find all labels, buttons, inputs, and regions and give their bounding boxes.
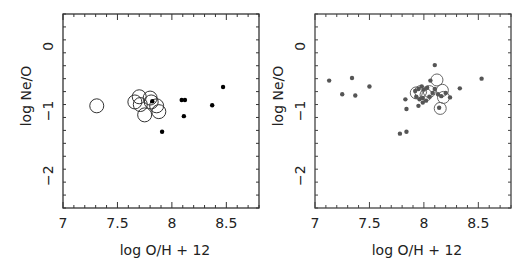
x-tick-label: 7 <box>311 215 320 231</box>
x-tick-label: 8.5 <box>215 215 237 231</box>
filled-dot-marker <box>210 103 214 107</box>
filled-dot-marker <box>430 91 434 95</box>
filled-dot-marker <box>458 86 462 90</box>
left-scatter-panel: 77.588.50−1−2 <box>40 14 259 231</box>
filled-dot-marker <box>448 95 452 99</box>
x-tick-label: 7.5 <box>106 215 128 231</box>
filled-dot-marker <box>327 78 331 82</box>
filled-dot-marker <box>421 100 425 104</box>
right-y-axis-label: log Ne/O <box>270 56 286 136</box>
filled-dot-marker <box>150 99 154 103</box>
filled-dot-marker <box>398 131 402 135</box>
x-tick-label: 8 <box>167 215 176 231</box>
filled-dot-marker <box>433 87 437 91</box>
filled-dot-marker <box>353 93 357 97</box>
y-tick-label: −1 <box>40 101 56 122</box>
open-circle-marker <box>90 99 104 113</box>
filled-dot-marker <box>160 129 164 133</box>
filled-dot-marker <box>404 129 408 133</box>
chart-figure: 77.588.50−1−2 77.588.50−1−2 <box>0 0 529 275</box>
x-tick-label: 8 <box>419 215 428 231</box>
filled-dot-marker <box>340 92 344 96</box>
x-tick-label: 7 <box>59 215 68 231</box>
x-tick-label: 7.5 <box>358 215 380 231</box>
filled-dot-marker <box>350 76 354 80</box>
filled-dot-marker <box>439 94 443 98</box>
filled-dot-marker <box>182 114 186 118</box>
y-tick-label: −1 <box>292 101 308 122</box>
open-circle-marker <box>152 105 166 119</box>
y-tick-label: 0 <box>40 42 56 51</box>
x-tick-label: 8.5 <box>467 215 489 231</box>
filled-dot-marker <box>425 86 429 90</box>
y-tick-label: −2 <box>292 165 308 186</box>
y-tick-label: −2 <box>40 165 56 186</box>
filled-dot-marker <box>367 84 371 88</box>
filled-dot-marker <box>443 91 447 95</box>
filled-dot-marker <box>479 76 483 80</box>
right-x-axis-label: log O/H + 12 <box>347 242 487 258</box>
filled-dot-marker <box>404 107 408 111</box>
right-scatter-panel: 77.588.50−1−2 <box>292 14 511 231</box>
left-y-axis-label: log Ne/O <box>18 56 34 136</box>
filled-dot-marker <box>416 104 420 108</box>
filled-dot-marker <box>428 78 432 82</box>
filled-dot-marker <box>221 85 225 89</box>
filled-dot-marker <box>427 95 431 99</box>
filled-dot-marker <box>183 98 187 102</box>
y-tick-label: 0 <box>292 42 308 51</box>
filled-dot-marker <box>403 97 407 101</box>
filled-dot-marker <box>437 106 441 110</box>
left-x-axis-label: log O/H + 12 <box>95 242 235 258</box>
filled-dot-marker <box>433 63 437 67</box>
plot-frame <box>315 14 511 208</box>
